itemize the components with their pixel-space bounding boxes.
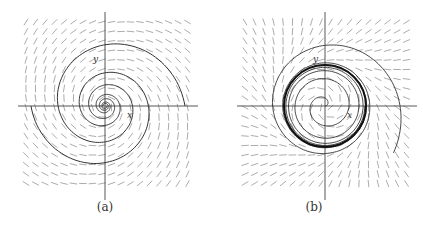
panel-b: xy (b) <box>211 0 423 227</box>
phase-portrait-a: xy <box>0 0 211 200</box>
y-axis-label: y <box>312 54 319 64</box>
x-axis-label: x <box>347 110 352 120</box>
caption-a: (a) <box>85 200 125 214</box>
panel-a: xy (a) <box>0 0 211 227</box>
direction-field <box>23 19 191 187</box>
direction-field <box>241 18 410 187</box>
phase-portrait-b: xy <box>211 0 423 200</box>
x-axis-label: x <box>127 110 132 120</box>
caption-b: (b) <box>294 200 334 214</box>
y-axis-label: y <box>92 54 99 64</box>
trajectory <box>57 44 185 142</box>
